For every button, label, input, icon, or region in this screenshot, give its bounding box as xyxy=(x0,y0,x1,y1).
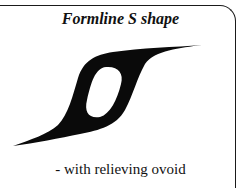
figure-title: Formline S shape xyxy=(0,10,241,28)
formline-s-shape-icon xyxy=(0,38,241,153)
figure-caption: - with relieving ovoid xyxy=(0,161,241,178)
